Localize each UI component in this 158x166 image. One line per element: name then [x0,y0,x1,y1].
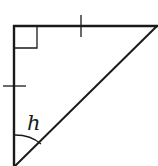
right-angle-marker [15,27,37,48]
triangle-diagram: h [0,0,158,166]
hypotenuse [15,26,157,166]
angle-arc [15,135,41,144]
angle-label-h: h [27,111,41,135]
